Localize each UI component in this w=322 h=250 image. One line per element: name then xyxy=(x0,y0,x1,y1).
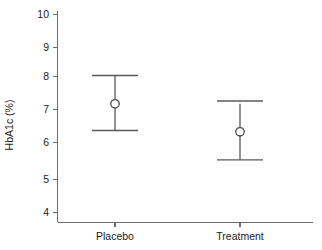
mean-marker-placebo xyxy=(111,100,119,108)
x-axis-ticks: Placebo Treatment xyxy=(96,223,264,243)
y-tick-label: 9 xyxy=(43,41,49,53)
y-tick-label: 6 xyxy=(43,136,49,148)
y-tick-label: 4 xyxy=(43,206,49,218)
y-tick-label: 8 xyxy=(43,70,49,82)
data-point-placebo[interactable] xyxy=(92,76,138,131)
y-axis-label: HbA1c (%) xyxy=(3,100,15,151)
x-tick-label-placebo: Placebo xyxy=(96,230,134,242)
y-tick-label: 5 xyxy=(43,173,49,185)
y-tick-label: 10 xyxy=(37,8,49,20)
mean-marker-treatment xyxy=(236,128,244,136)
hba1c-error-bar-chart: HbA1c (%) 10 9 8 7 6 5 4 xyxy=(0,0,322,250)
x-tick-label-treatment: Treatment xyxy=(216,230,264,242)
chart-container: HbA1c (%) 10 9 8 7 6 5 4 xyxy=(0,0,322,250)
y-tick-label: 7 xyxy=(43,103,49,115)
data-point-treatment[interactable] xyxy=(217,101,263,160)
y-axis-ticks: 10 9 8 7 6 5 4 xyxy=(37,8,57,218)
